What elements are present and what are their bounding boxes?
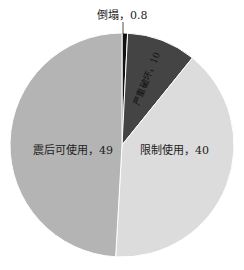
label-restricted-use: 限制使用，40 [140, 141, 209, 157]
label-usable-after-quake: 震后可使用，49 [33, 141, 113, 157]
label-collapse: 倒塌，0.8 [97, 6, 148, 22]
pie-chart [0, 0, 244, 270]
